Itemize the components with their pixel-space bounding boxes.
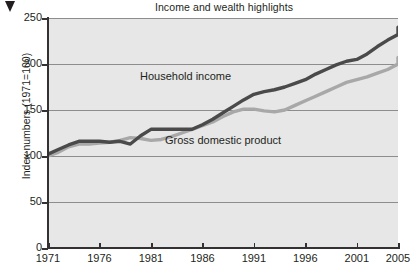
series-label-household-income: Household income — [140, 70, 231, 82]
y-tick-label: 200 — [0, 57, 42, 69]
plot-area — [48, 18, 398, 248]
x-tick-mark — [398, 243, 400, 249]
y-tick-mark — [42, 110, 48, 112]
x-tick-mark — [305, 243, 307, 249]
series-lines — [48, 18, 398, 248]
x-tick-mark — [151, 243, 153, 249]
y-axis-line — [47, 17, 49, 249]
y-tick-mark — [42, 18, 48, 20]
y-tick-mark — [42, 202, 48, 204]
x-tick-mark — [99, 243, 101, 249]
series-label-gross-domestic-product: Gross domestic product — [165, 134, 281, 146]
y-axis-label: Index numbers (1971=100) — [20, 26, 32, 206]
x-tick-mark — [254, 243, 256, 249]
y-tick-label: 150 — [0, 103, 42, 115]
x-tick-mark — [48, 243, 50, 249]
x-tick-mark — [357, 243, 359, 249]
x-tick-mark — [202, 243, 204, 249]
x-tick-label: 2005 — [368, 252, 415, 264]
y-tick-label: 250 — [0, 11, 42, 23]
y-tick-label: 100 — [0, 149, 42, 161]
y-tick-mark — [42, 64, 48, 66]
y-tick-mark — [42, 156, 48, 158]
chart-title: Income and wealth highlights — [48, 1, 400, 13]
y-tick-label: 50 — [0, 195, 42, 207]
